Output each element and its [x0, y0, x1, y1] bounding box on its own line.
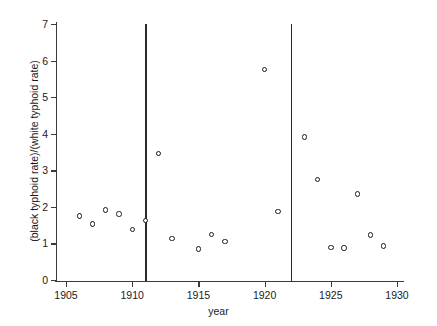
x-tick-label-1910: 1910	[112, 290, 152, 301]
data-point	[169, 236, 174, 241]
y-axis-line	[56, 22, 57, 282]
data-point	[341, 245, 346, 250]
y-tick-1	[51, 243, 56, 244]
plot-area: 01234567 190519101915192019251930 year (…	[0, 0, 437, 326]
y-tick-label-0: 0	[30, 275, 48, 285]
x-tick-1915	[198, 282, 199, 287]
data-point	[275, 209, 280, 214]
data-point	[103, 207, 108, 212]
x-axis-line	[55, 281, 404, 282]
x-tick-label-1925: 1925	[311, 290, 351, 301]
y-tick-0	[51, 280, 56, 281]
x-tick-1905	[66, 282, 67, 287]
data-point	[368, 232, 373, 237]
data-point	[381, 243, 386, 248]
y-tick-label-7: 7	[30, 19, 48, 29]
data-point	[262, 67, 267, 72]
data-point	[143, 218, 148, 223]
data-point	[328, 245, 333, 250]
x-tick-1925	[331, 282, 332, 287]
y-tick-6	[51, 61, 56, 62]
vertical-line-1922	[291, 24, 292, 281]
y-tick-4	[51, 134, 56, 135]
data-point	[156, 151, 161, 156]
x-tick-1920	[265, 282, 266, 287]
data-point	[315, 177, 320, 182]
x-tick-1930	[397, 282, 398, 287]
x-tick-label-1930: 1930	[377, 290, 417, 301]
y-tick-2	[51, 207, 56, 208]
x-tick-label-1905: 1905	[46, 290, 86, 301]
vertical-line-1911	[145, 24, 146, 281]
y-tick-5	[51, 97, 56, 98]
scatter-chart-figure: 01234567 190519101915192019251930 year (…	[0, 0, 437, 326]
y-tick-7	[51, 24, 56, 25]
x-tick-label-1915: 1915	[178, 290, 218, 301]
data-point	[302, 134, 307, 139]
data-point	[130, 227, 135, 232]
data-point	[222, 239, 227, 244]
x-tick-label-1920: 1920	[245, 290, 285, 301]
data-point	[196, 246, 201, 251]
y-tick-3	[51, 170, 56, 171]
data-point	[355, 191, 360, 196]
data-point	[77, 213, 82, 218]
y-axis-label: (black typhoid rate)/(white typhoid rate…	[28, 31, 40, 271]
data-point	[209, 232, 214, 237]
data-point	[90, 221, 95, 226]
x-tick-1910	[132, 282, 133, 287]
x-axis-label: year	[0, 305, 437, 317]
data-point	[116, 211, 121, 216]
